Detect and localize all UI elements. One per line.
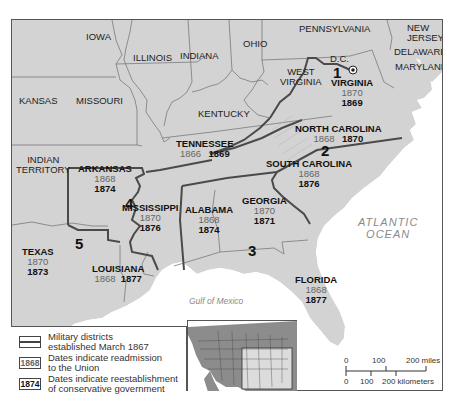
scale-km-200: 200 kilometers <box>382 377 434 386</box>
conservative-swatch: 1874 <box>19 378 41 390</box>
inset-locator-map <box>187 320 297 391</box>
conservative-date: 1869 <box>209 148 230 159</box>
label-dc: D.C. <box>330 54 349 64</box>
legend: Military districts established March 186… <box>11 326 187 391</box>
state-south-carolina: SOUTH CAROLINA 1868 1876 <box>266 159 352 189</box>
conservative-date: 1874 <box>185 225 233 235</box>
label-maryland: MARYLAND <box>395 62 443 72</box>
label-delaware: DELAWARE <box>394 47 443 57</box>
state-texas: TEXAS 1870 1873 <box>22 247 54 277</box>
scale-bar: 0 100 200 miles 0 100 200 kilometers <box>344 356 444 390</box>
state-georgia: GEORGIA 1870 1871 <box>242 196 287 226</box>
label-missouri: MISSOURI <box>76 96 123 106</box>
label-indian-territory: INDIAN TERRITORY <box>16 155 71 175</box>
district-number-5: 5 <box>75 235 83 252</box>
scale-ruler <box>344 365 434 377</box>
dc-marker-dot <box>351 68 355 72</box>
inset-svg <box>188 321 297 391</box>
conservative-date: 1874 <box>78 184 132 194</box>
conservative-date: 1871 <box>242 216 287 226</box>
readmission-swatch: 1868 <box>19 357 41 369</box>
conservative-date: 1876 <box>266 179 352 189</box>
conservative-date: 1870 <box>342 133 363 144</box>
legend-row-conservative: 1874 Dates indicate reestablishment of c… <box>19 374 178 394</box>
district-number-1: 1 <box>333 64 341 81</box>
scale-km-0: 0 <box>344 377 348 386</box>
label-atlantic-ocean: ATLANTIC OCEAN <box>358 216 418 240</box>
scale-miles-200: 200 miles <box>406 356 440 365</box>
district-number-3: 3 <box>248 242 256 259</box>
conservative-date: 1877 <box>121 273 142 284</box>
legend-conservative-label: Dates indicate reestablishment of conser… <box>48 374 178 394</box>
state-florida: FLORIDA 1868 1877 <box>295 275 337 305</box>
state-tennessee: TENNESSEE 1866 1869 <box>176 139 234 159</box>
conservative-date: 1869 <box>331 98 373 108</box>
conservative-date: 1876 <box>122 223 179 233</box>
label-ohio: OHIO <box>243 39 267 49</box>
state-louisiana: LOUISIANA 1868 1877 <box>92 264 144 284</box>
legend-readmission-label: Dates indicate readmission to the Union <box>48 353 162 373</box>
label-west-virginia: WEST VIRGINIA <box>280 67 322 87</box>
label-indiana: INDIANA <box>180 51 219 61</box>
label-illinois: ILLINOIS <box>133 53 172 63</box>
scale-km-100: 100 <box>360 377 373 386</box>
readmission-date: 1866 <box>180 148 201 159</box>
label-kentucky: KENTUCKY <box>198 109 250 119</box>
label-iowa: IOWA <box>86 32 111 42</box>
inset-focus-area <box>242 348 292 389</box>
state-virginia: VIRGINIA 1870 1869 <box>331 78 373 108</box>
label-kansas: KANSAS <box>19 96 58 106</box>
district-border-swatch <box>19 336 41 348</box>
legend-row-districts: Military districts established March 186… <box>19 332 149 352</box>
conservative-date: 1877 <box>295 295 337 305</box>
state-arkansas: ARKANSAS 1868 1874 <box>78 164 132 194</box>
label-gulf-of-mexico: Gulf of Mexico <box>189 296 243 306</box>
scale-miles-0: 0 <box>344 356 348 365</box>
district-number-2: 2 <box>321 142 329 159</box>
state-alabama: ALABAMA 1868 1874 <box>185 205 233 235</box>
label-pennsylvania: PENNSYLVANIA <box>299 24 370 34</box>
state-north-carolina: NORTH CAROLINA 1868 1870 <box>295 124 382 144</box>
legend-districts-label: Military districts established March 186… <box>48 332 149 352</box>
legend-row-readmission: 1868 Dates indicate readmission to the U… <box>19 353 162 373</box>
scale-miles-100: 100 <box>372 356 385 365</box>
label-new-jersey: NEW JERSEY <box>407 23 443 43</box>
conservative-date: 1873 <box>22 267 54 277</box>
district-number-4: 4 <box>125 195 133 212</box>
readmission-date: 1868 <box>94 273 115 284</box>
state-name: NORTH CAROLINA <box>295 124 382 134</box>
